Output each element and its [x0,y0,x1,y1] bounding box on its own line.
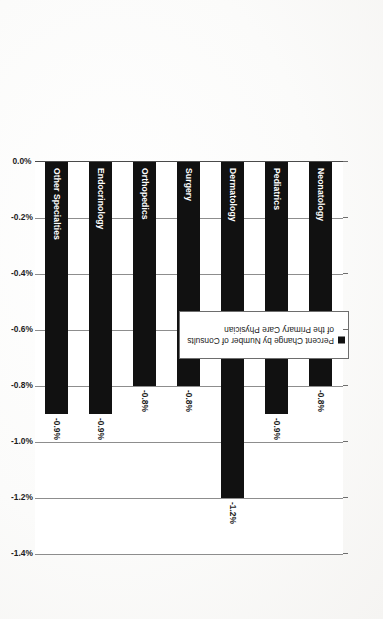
axis-tick [343,273,348,274]
axis-tick-label: -1.4% [6,548,38,558]
legend-swatch-icon [338,337,345,344]
axis-tick-label: -0.8% [6,380,38,390]
bar[interactable] [266,162,289,414]
axis-tick [343,217,348,218]
axis-tick-label: -0.4% [6,268,38,278]
axis-tick-label: -1.2% [6,492,38,502]
gridline [35,554,343,555]
axis-tick [343,385,348,386]
bar-value-label: -0.8% [134,390,157,412]
bar-value-label: -0.9% [266,418,289,440]
bar-value-label: -0.8% [310,390,333,412]
bar-value-label: -0.8% [178,390,201,412]
axis-tick [343,553,348,554]
bar[interactable] [90,162,113,414]
axis-tick [343,329,348,330]
axis-tick-label: -1.0% [6,436,38,446]
figure-page: Neonatology-0.8%Pediatrics-0.9%Dermatolo… [0,0,383,619]
axis-tick-label: -0.2% [6,212,38,222]
gridline [35,498,343,499]
gridline [35,386,343,387]
bar-chart: Neonatology-0.8%Pediatrics-0.9%Dermatolo… [27,161,357,591]
bar[interactable] [46,162,69,414]
chart-legend: Percent Change by Number of Consults of … [179,311,349,359]
bar-value-label: -0.9% [90,418,113,440]
axis-tick [343,161,348,162]
bar-value-label: -0.9% [46,418,69,440]
axis-tick [343,441,348,442]
axis-tick-label: -0.6% [6,324,38,334]
gridline [35,442,343,443]
axis-tick [343,497,348,498]
axis-tick-label: 0.0% [6,156,38,166]
bar-value-label: -1.2% [222,502,245,524]
legend-entry-label: Percent Change by Number of Consults of … [183,325,334,346]
bar[interactable] [134,162,157,386]
